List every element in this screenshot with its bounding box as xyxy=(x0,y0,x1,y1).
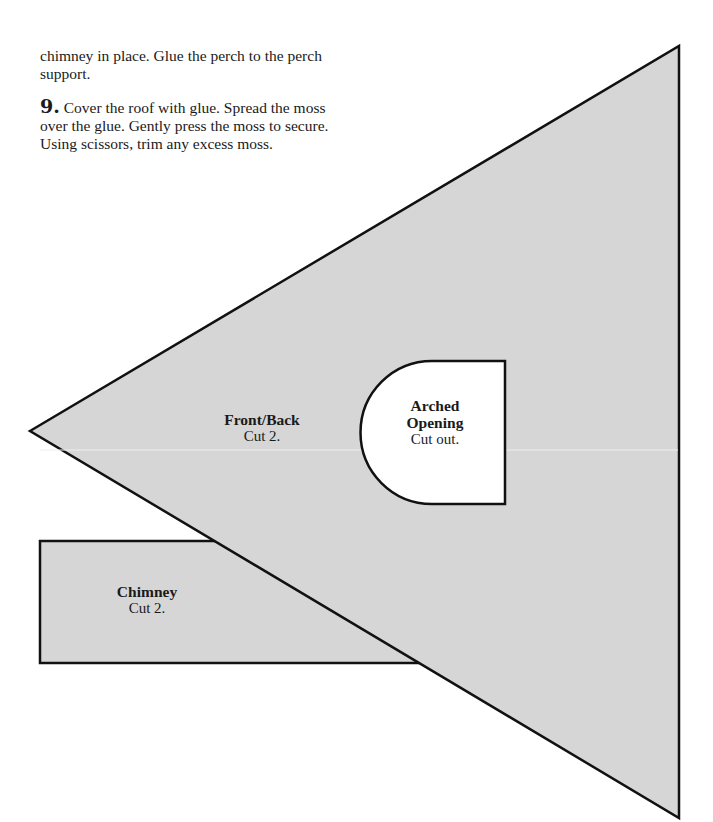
front-back-label: Front/Back Cut 2. xyxy=(200,411,324,445)
chimney-label: Chimney Cut 2. xyxy=(92,583,202,617)
arched-opening-label: Arched Opening Cut out. xyxy=(385,397,485,448)
front-back-piece xyxy=(30,46,679,818)
pattern-diagram xyxy=(0,0,713,822)
